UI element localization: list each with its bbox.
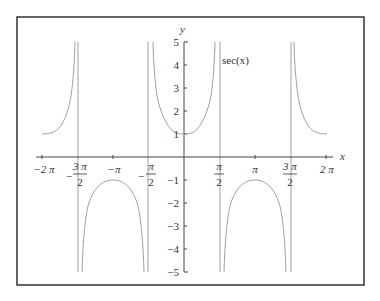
curve-branch-4 <box>224 180 286 272</box>
svg-text:2: 2 <box>148 176 154 188</box>
svg-text:−: − <box>66 170 72 182</box>
x-tick-pi: π <box>252 163 258 175</box>
x-tick-neg-3pi-2: − 3 π 2 <box>66 160 87 188</box>
svg-text:−4: −4 <box>167 243 179 255</box>
x-axis-label: x <box>339 150 345 162</box>
x-tick-pi-2: π 2 <box>214 160 224 188</box>
plot-frame <box>17 17 364 285</box>
svg-text:−1: −1 <box>167 174 179 186</box>
x-tick-2pi: 2 π <box>320 163 334 175</box>
svg-text:−2: −2 <box>167 197 179 209</box>
curve-branch-1 <box>42 42 75 134</box>
x-tick-neg-pi-2: − π 2 <box>138 160 156 188</box>
svg-text:2: 2 <box>77 176 83 188</box>
curve-branch-5 <box>294 42 327 134</box>
sec-chart: y x sec(x) 5 4 3 2 1 −1 −2 −3 −4 −5 −2 π… <box>0 0 380 301</box>
svg-text:4: 4 <box>174 59 180 71</box>
svg-text:1: 1 <box>174 128 180 140</box>
function-label: sec(x) <box>222 54 249 67</box>
svg-text:−: − <box>138 170 144 182</box>
svg-text:−5: −5 <box>167 266 179 278</box>
svg-text:π: π <box>148 160 154 172</box>
svg-text:3 π: 3 π <box>72 160 87 172</box>
svg-text:2: 2 <box>287 176 293 188</box>
svg-text:π: π <box>216 160 222 172</box>
x-tick-neg-2pi: −2 π <box>33 163 55 175</box>
svg-text:−3: −3 <box>167 220 179 232</box>
x-tick-3pi-2: 3 π 2 <box>282 160 297 188</box>
svg-text:3 π: 3 π <box>282 160 297 172</box>
svg-text:2: 2 <box>216 176 222 188</box>
svg-text:5: 5 <box>174 36 180 48</box>
x-tick-neg-pi: −π <box>108 163 121 175</box>
curve-branch-2 <box>82 180 144 272</box>
svg-text:3: 3 <box>174 82 180 94</box>
svg-text:2: 2 <box>174 105 180 117</box>
y-axis-label: y <box>179 23 185 35</box>
